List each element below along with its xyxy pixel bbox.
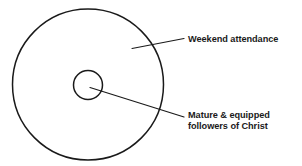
leader-line-weekend-attendance (132, 39, 184, 49)
label-mature-followers-line-2: followers of Christ (188, 121, 270, 132)
leader-line-mature-followers (90, 88, 184, 118)
label-weekend-attendance-text: Weekend attendance (188, 34, 278, 45)
label-mature-followers: Mature & equipped followers of Christ (188, 110, 270, 132)
diagram-canvas (0, 0, 302, 166)
inner-circle (74, 71, 103, 100)
label-mature-followers-line-1: Mature & equipped (188, 110, 270, 121)
label-weekend-attendance: Weekend attendance (188, 34, 278, 45)
concentric-circles-diagram: Weekend attendance Mature & equipped fol… (0, 0, 302, 166)
outer-circle (13, 9, 164, 160)
